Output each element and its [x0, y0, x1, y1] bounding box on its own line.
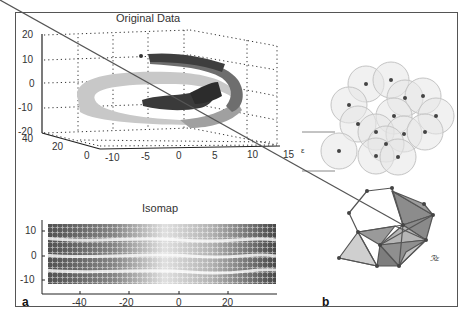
complex-label: ℛε: [430, 254, 439, 264]
panel-label-b: b: [322, 295, 329, 309]
simplicial-complex-diagram: [0, 0, 469, 322]
